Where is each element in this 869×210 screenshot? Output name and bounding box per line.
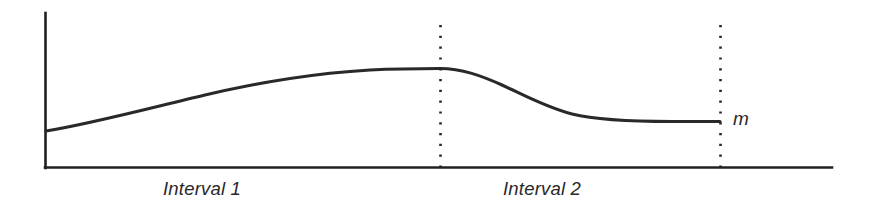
chart-canvas — [0, 0, 869, 210]
interval-2-label: Interval 2 — [503, 178, 581, 200]
data-curve — [46, 69, 720, 132]
line-chart-figure: Interval 1 Interval 2 m — [0, 0, 869, 210]
asymptote-label: m — [733, 108, 749, 130]
interval-1-label: Interval 1 — [163, 178, 241, 200]
